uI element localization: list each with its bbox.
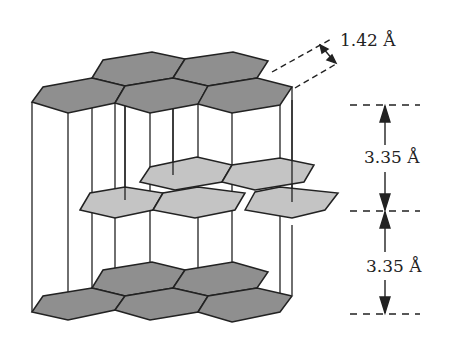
middle-layer: [80, 157, 338, 218]
diagram-svg: [0, 0, 454, 344]
bottom-layer: [32, 262, 292, 322]
bond-length-label: 1.42 Å: [340, 30, 396, 50]
spacing-top-label: 3.35 Å: [364, 147, 420, 167]
spacing-bottom-label: 3.35 Å: [366, 256, 422, 276]
graphite-structure-diagram: 1.42 Å 3.35 Å 3.35 Å: [0, 0, 454, 344]
top-layer: [32, 52, 292, 113]
layer-spacing-indicator: [350, 105, 420, 314]
bond-length-indicator: [272, 38, 336, 88]
